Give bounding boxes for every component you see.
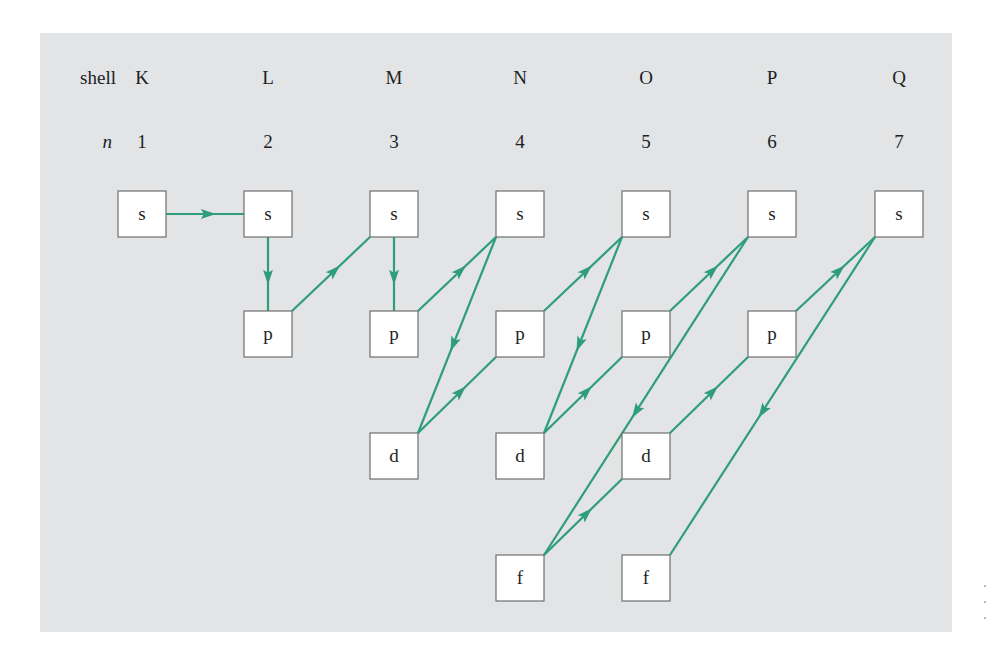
subshell-box-6p: p [748,311,796,357]
subshell-label: d [641,445,651,466]
subshell-box-4d: d [496,433,544,479]
subshell-label: p [767,323,777,344]
subshell-boxes: sspspdspdfspdfsps [118,191,923,601]
subshell-label: s [264,203,271,224]
shell-letter-N: N [513,67,527,88]
subshell-box-5d: d [622,433,670,479]
arrow-4d-to-5p [544,357,622,433]
arrow-4p-to-5s [544,237,622,311]
subshell-label: s [642,203,649,224]
arrow-5s-to-4d [544,237,622,433]
arrow-3p-to-4s [418,237,496,311]
subshell-box-3p: p [370,311,418,357]
arrow-4f-to-5d [544,479,622,555]
subshell-box-5p: p [622,311,670,357]
subshell-label: s [895,203,902,224]
arrowhead-icon [759,403,771,418]
arrow-2s-to-2p [263,237,273,311]
subshell-label: p [641,323,651,344]
shell-row-label: shell [80,67,116,88]
arrow-7s-to-5f [670,237,875,555]
arrow-2p-to-3s [292,237,370,311]
arrow-5p-to-6s [670,237,748,311]
subshell-label: p [263,323,273,344]
arrow-6s-to-4f [544,237,748,555]
subshell-label: f [643,567,650,588]
subshell-box-6s: s [748,191,796,237]
n-value-2: 2 [263,131,273,152]
n-value-4: 4 [515,131,525,152]
shell-letter-P: P [767,67,778,88]
arrow-3d-to-4p [418,357,496,433]
subshell-box-3d: d [370,433,418,479]
subshell-box-2s: s [244,191,292,237]
subshell-box-4s: s [496,191,544,237]
subshell-label: s [516,203,523,224]
scan-artifacts [984,585,986,619]
n-value-6: 6 [767,131,777,152]
subshell-box-5s: s [622,191,670,237]
filling-order-arrows [166,209,875,555]
arrow-4s-to-3d [418,237,496,433]
shell-letter-K: K [135,67,149,88]
subshell-label: p [389,323,399,344]
n-value-3: 3 [389,131,399,152]
subshell-label: f [517,567,524,588]
n-value-5: 5 [641,131,651,152]
subshell-box-4p: p [496,311,544,357]
subshell-box-4f: f [496,555,544,601]
subshell-label: s [768,203,775,224]
arrow-1s-to-2s [166,209,244,219]
arrow-5d-to-6p [670,357,748,433]
arrowhead-icon [632,403,644,418]
subshell-box-3s: s [370,191,418,237]
subshell-label: p [515,323,525,344]
shell-letter-Q: Q [892,67,906,88]
shell-letter-O: O [639,67,653,88]
n-value-1: 1 [137,131,147,152]
n-row-label: n [103,131,113,152]
shell-letter-M: M [386,67,403,88]
n-value-7: 7 [894,131,904,152]
subshell-label: s [390,203,397,224]
subshell-label: d [389,445,399,466]
aufbau-diagram: shell n K1L2M3N4O5P6Q7 sspspdspdfspdfsps [0,0,988,657]
subshell-box-2p: p [244,311,292,357]
arrow-3s-to-3p [389,237,399,311]
subshell-box-7s: s [875,191,923,237]
subshell-box-5f: f [622,555,670,601]
subshell-box-1s: s [118,191,166,237]
header-rows: shell n K1L2M3N4O5P6Q7 [80,67,906,152]
subshell-label: s [138,203,145,224]
subshell-label: d [515,445,525,466]
shell-letter-L: L [262,67,274,88]
